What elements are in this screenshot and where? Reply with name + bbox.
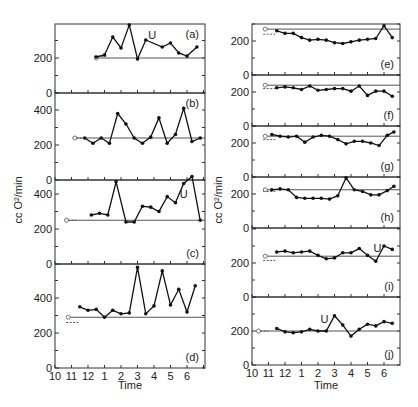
data-point [275,29,279,33]
data-point [127,311,131,315]
y-tick-label: 0 [46,174,52,186]
data-point [174,201,178,205]
data-point [114,180,118,184]
data-point [374,324,378,328]
data-point [382,244,386,248]
panel-label: (f) [384,109,394,121]
data-point [177,51,181,55]
x-tick-label: 5 [364,367,370,379]
panel-g: 0200(g) [231,126,400,183]
data-point [275,250,279,254]
data-point [300,88,304,92]
data-point [160,45,164,49]
y-tick-label: 0 [243,291,249,303]
data-point [270,188,274,192]
data-point [382,24,386,28]
data-point [300,36,304,40]
data-point [341,42,345,46]
x-tick-label: 10 [49,370,61,382]
u-marker: U [180,188,188,200]
data-point [366,38,370,42]
series-line [272,178,394,199]
x-tick-label: 11 [263,367,274,379]
data-point [344,176,348,180]
y-tick-label: 0 [243,120,249,132]
data-point [369,193,373,197]
data-point [382,320,386,324]
data-point [78,305,82,309]
data-point [291,331,295,335]
y-tick-label: 400 [34,188,52,200]
x-tick-label: 3 [331,367,337,379]
data-point [111,308,115,312]
data-point [132,136,136,140]
y-tick-label: 200 [231,188,249,200]
y-axis-label-right: cc O²/min [212,176,224,223]
panel-label: (b) [186,97,199,109]
data-point [349,334,353,338]
data-point [278,187,282,191]
data-point [103,315,107,319]
baseline-marker-icon [66,315,70,319]
data-point [357,328,361,332]
panel-e: 0200(e) [231,24,400,81]
data-point [157,116,161,120]
data-point [308,84,312,88]
y-tick-label: 200 [231,86,249,98]
data-point [119,46,123,50]
data-point [283,249,287,253]
x-tick-label: 10 [246,367,258,379]
x-tick-label: 12 [279,367,291,379]
data-point [369,141,373,145]
data-point [103,53,107,57]
data-point [357,38,361,42]
y-axis-label: cc O²/min [12,176,24,223]
data-point [341,87,345,91]
y-tick-label: 0 [243,171,249,183]
panel-c: 0200400(c)U [34,175,205,270]
data-point [195,45,199,49]
data-point [127,23,131,27]
panel-frame [252,177,400,228]
data-point [349,40,353,44]
panel-d: 0200400(d) [34,264,205,374]
data-point [357,84,361,88]
y-tick-label: 200 [231,137,249,149]
data-point [374,89,378,93]
data-point [311,135,315,139]
data-point [328,134,332,138]
data-point [316,254,320,258]
data-point [283,330,287,334]
data-point [149,205,153,209]
data-point [374,37,378,41]
data-point [295,134,299,138]
panel-a: 0200(a)U [34,23,205,99]
data-point [295,196,299,200]
panel-b: 0200400(b) [34,93,205,187]
data-point [136,266,140,270]
panel-label: (e) [381,58,394,70]
panel-label: (c) [186,247,199,259]
data-point [316,38,320,42]
u-marker: U [148,29,156,41]
y-tick-label: 200 [34,52,52,64]
data-point [390,248,394,252]
x-tick-label: 4 [348,367,354,379]
y-tick-label: 400 [34,104,52,116]
data-point [353,188,357,192]
data-point [320,134,324,138]
data-point [190,140,194,144]
data-point [324,257,328,261]
data-point [124,122,128,126]
data-point [291,32,295,36]
data-point [366,322,370,326]
data-point [278,134,282,138]
y-tick-label: 200 [231,325,249,337]
data-point [198,136,202,140]
data-point [283,32,287,36]
data-point [353,140,357,144]
data-point [390,322,394,326]
data-point [169,303,173,307]
data-point [291,251,295,255]
data-point [91,141,95,145]
